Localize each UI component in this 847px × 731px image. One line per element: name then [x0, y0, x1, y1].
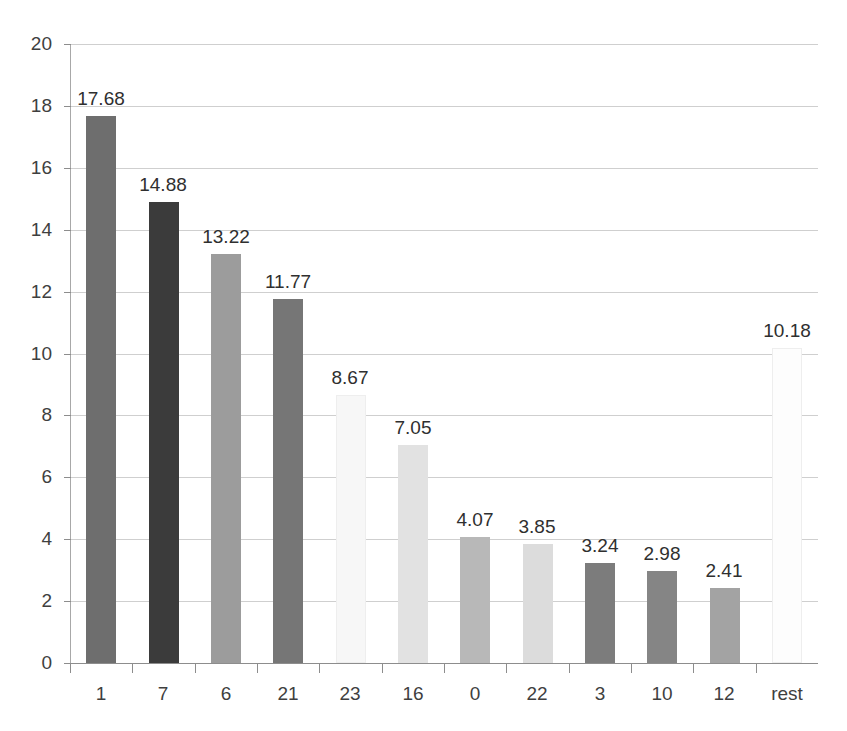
bar-value-label: 3.85 [506, 517, 568, 537]
x-axis-tick [70, 664, 71, 673]
bar-value-label: 2.41 [693, 561, 755, 581]
x-axis-tick [756, 664, 757, 673]
x-axis-tick-label: rest [756, 684, 818, 704]
y-axis-tick [64, 477, 71, 478]
bar [149, 202, 179, 663]
gridline [70, 230, 818, 231]
y-axis-tick-label: 20 [0, 34, 52, 53]
y-axis-tick-label: 18 [0, 96, 52, 115]
y-axis-tick-label: 0 [0, 653, 52, 672]
bar [398, 445, 428, 663]
x-axis-tick-label: 16 [382, 684, 444, 704]
x-axis-tick [506, 664, 507, 673]
x-axis-tick [382, 664, 383, 673]
bar [336, 395, 366, 663]
bar [86, 116, 116, 663]
bar-value-label: 11.77 [257, 272, 319, 292]
bar [211, 254, 241, 663]
gridline [70, 477, 818, 478]
x-axis-tick-label: 1 [70, 684, 132, 704]
x-axis-tick [569, 664, 570, 673]
gridline [70, 354, 818, 355]
x-axis-tick-label: 23 [319, 684, 381, 704]
x-axis-tick [257, 664, 258, 673]
bar [710, 588, 740, 663]
y-axis-tick [64, 539, 71, 540]
bar-value-label: 17.68 [70, 89, 132, 109]
bar-value-label: 3.24 [569, 536, 631, 556]
y-axis-tick [64, 230, 71, 231]
x-axis-tick-label: 22 [506, 684, 568, 704]
x-axis-tick [631, 664, 632, 673]
bar [772, 348, 802, 663]
y-axis-tick [64, 601, 71, 602]
y-axis-tick [64, 44, 71, 45]
bar-chart: 02468101214161820 17621231602231012rest … [0, 0, 847, 731]
x-axis-tick [195, 664, 196, 673]
y-axis-tick-label: 4 [0, 529, 52, 548]
x-axis-tick-label: 7 [132, 684, 194, 704]
bar-value-label: 2.98 [631, 544, 693, 564]
x-axis-tick-label: 6 [195, 684, 257, 704]
bar [273, 299, 303, 663]
x-axis-tick-label: 21 [257, 684, 319, 704]
y-axis-tick-label: 2 [0, 591, 52, 610]
y-axis-tick [64, 292, 71, 293]
gridline [70, 168, 818, 169]
bar [460, 537, 490, 663]
y-axis-tick-label: 16 [0, 158, 52, 177]
bar-value-label: 13.22 [195, 227, 257, 247]
y-axis-tick [64, 354, 71, 355]
bar-value-label: 8.67 [319, 368, 381, 388]
gridline [70, 539, 818, 540]
x-axis-tick-label: 10 [631, 684, 693, 704]
gridline [70, 415, 818, 416]
bar [585, 563, 615, 663]
y-axis-tick [64, 168, 71, 169]
bar-value-label: 4.07 [444, 510, 506, 530]
x-axis-tick-label: 12 [693, 684, 755, 704]
x-axis-tick [132, 664, 133, 673]
bar [523, 544, 553, 663]
y-axis-tick-label: 14 [0, 220, 52, 239]
y-axis-tick-label: 8 [0, 405, 52, 424]
y-axis-tick-label: 6 [0, 467, 52, 486]
x-axis-tick [693, 664, 694, 673]
x-axis-tick-label: 3 [569, 684, 631, 704]
gridline [70, 106, 818, 107]
bar-value-label: 7.05 [382, 418, 444, 438]
gridline [70, 44, 818, 45]
x-axis-tick [319, 664, 320, 673]
bar-value-label: 10.18 [756, 321, 818, 341]
bar [647, 571, 677, 663]
scan-edge-artifact [0, 726, 847, 731]
x-axis-tick [444, 664, 445, 673]
y-axis-tick-label: 12 [0, 282, 52, 301]
bar-value-label: 14.88 [132, 175, 194, 195]
y-axis-tick-label: 10 [0, 344, 52, 363]
y-axis-tick [64, 415, 71, 416]
x-axis-tick-label: 0 [444, 684, 506, 704]
gridline [70, 601, 818, 602]
gridline [70, 292, 818, 293]
